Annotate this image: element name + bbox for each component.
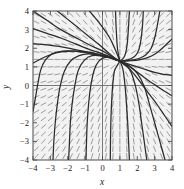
svg-text:−2: −2: [20, 118, 29, 128]
svg-text:−1: −1: [20, 99, 29, 109]
y-axis-title: y: [1, 84, 11, 90]
svg-text:−3: −3: [20, 136, 29, 146]
direction-field-figure: −4−3−2−101234 −4−3−2−101234 x y: [0, 0, 184, 189]
svg-text:1: 1: [118, 163, 122, 173]
svg-text:−4: −4: [28, 163, 38, 173]
svg-text:1: 1: [25, 62, 29, 72]
x-axis-title: x: [99, 177, 105, 187]
svg-text:−4: −4: [20, 155, 30, 165]
svg-text:0: 0: [25, 81, 29, 91]
svg-text:−3: −3: [46, 163, 55, 173]
svg-text:2: 2: [135, 163, 139, 173]
svg-text:3: 3: [25, 25, 29, 35]
svg-text:2: 2: [25, 43, 29, 53]
x-axis-tick-labels: −4−3−2−101234: [28, 163, 174, 173]
svg-text:−1: −1: [81, 163, 90, 173]
svg-text:0: 0: [100, 163, 104, 173]
svg-text:3: 3: [153, 163, 157, 173]
plot-canvas: −4−3−2−101234 −4−3−2−101234 x y: [0, 0, 184, 189]
svg-text:−2: −2: [63, 163, 72, 173]
